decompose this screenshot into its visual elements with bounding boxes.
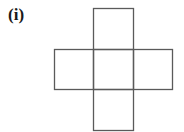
square-center <box>94 50 134 90</box>
square-right <box>134 50 173 90</box>
square-left <box>55 50 94 90</box>
square-top <box>94 9 134 50</box>
square-bottom <box>94 90 134 131</box>
cross-net-diagram <box>0 0 184 132</box>
